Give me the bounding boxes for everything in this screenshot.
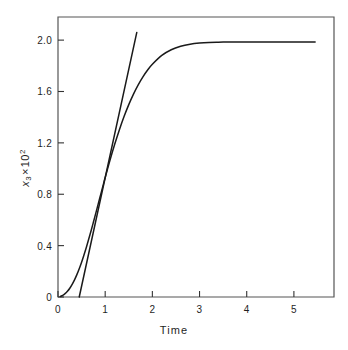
- plot-frame: [58, 17, 334, 297]
- x-tick-label: 1: [102, 304, 108, 315]
- frame-border: [58, 17, 334, 297]
- x-tick-label: 3: [197, 304, 203, 315]
- y-tick-label: 1.2: [8, 137, 52, 148]
- y-axis-subscript: 3: [24, 176, 33, 181]
- y-tick-label: 0.4: [8, 240, 52, 251]
- y-tick-label: 0: [8, 292, 52, 303]
- x-axis-title: Time: [0, 324, 348, 336]
- tangent-line: [79, 32, 137, 297]
- y-tick-label: 0.8: [8, 189, 52, 200]
- chart-canvas: [0, 0, 348, 350]
- x-axis-tick-marks: [58, 291, 294, 297]
- y-axis-tick-marks: [58, 40, 64, 297]
- data-series-group: [60, 32, 315, 297]
- x-tick-label: 0: [55, 304, 61, 315]
- y-axis-base: 10: [19, 154, 31, 167]
- x-tick-label: 2: [149, 304, 155, 315]
- y-tick-label: 2.0: [8, 35, 52, 46]
- y-axis-title: x3×102: [18, 149, 33, 187]
- x-tick-label: 5: [291, 304, 297, 315]
- y-axis-variable: x: [19, 181, 31, 187]
- y-axis-multiply-icon: ×: [19, 167, 31, 176]
- y-tick-label: 1.6: [8, 86, 52, 97]
- sigmoid-response-curve: [60, 42, 315, 296]
- figure-container: x3×102 Time 00.40.81.21.62.0 012345: [0, 0, 348, 350]
- x-tick-label: 4: [244, 304, 250, 315]
- y-axis-exponent: 2: [18, 149, 27, 154]
